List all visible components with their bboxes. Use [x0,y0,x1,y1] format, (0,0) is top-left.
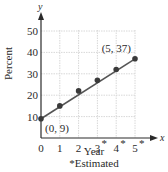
y-tick-50: 50 [27,25,39,37]
y-axis-label: Percent [2,47,14,80]
y-tick-20: 20 [27,89,39,101]
y-tick-10: 10 [27,111,39,123]
y-tick-30: 30 [27,68,39,80]
x-axis-label: Year [0,145,168,157]
y-axis-variable: y [37,1,43,12]
data-point [76,88,82,94]
data-point [95,77,101,83]
annotation-end-point: (5, 37) [102,42,132,55]
data-point [38,116,44,122]
x-axis-variable: x [159,132,165,143]
data-point [57,103,63,109]
data-point [132,56,138,62]
annotation-start-point: (0, 9) [45,122,69,135]
y-tick-labels: 1020304050 [27,25,39,123]
y-tick-40: 40 [27,46,39,58]
data-point [113,67,119,73]
trend-line [41,59,135,119]
footnote-estimated: *Estimated [0,157,168,169]
